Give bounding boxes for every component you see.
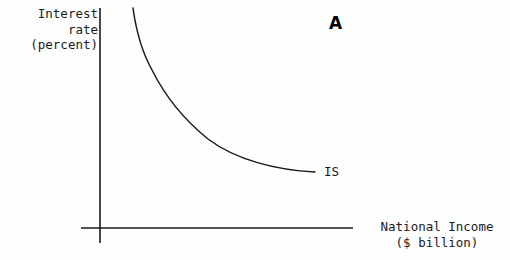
y-axis-label: Interestrate(percent) (0, 6, 98, 53)
is-curve-figure: Interestrate(percent) National Income($ … (0, 0, 510, 260)
x-axis-label-line2: ($ billion) (366, 235, 508, 251)
is-curve (133, 8, 315, 172)
panel-label: A (329, 13, 342, 33)
y-axis-label-line2: rate (68, 22, 98, 37)
x-axis-label: National Income($ billion) (366, 219, 508, 250)
is-curve-label: IS (324, 164, 339, 180)
y-axis-label-line1: Interest (38, 6, 98, 21)
y-axis-label-line3: (percent) (30, 37, 98, 52)
x-axis-label-line1: National Income (381, 219, 494, 234)
